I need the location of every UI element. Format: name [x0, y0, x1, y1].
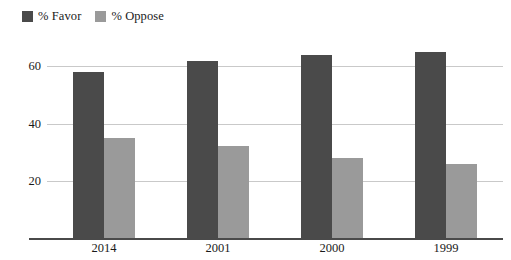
- bar-1999-oppose: [446, 164, 477, 238]
- bar-group-2001: [187, 32, 249, 238]
- x-tick-label-2001: 2001: [206, 241, 231, 256]
- bar-2001-favor: [187, 61, 218, 238]
- legend-swatch-favor: [22, 11, 33, 22]
- y-tick-label-60: 60: [29, 60, 42, 73]
- legend-label-favor: % Favor: [38, 10, 81, 23]
- bar-2000-favor: [301, 55, 332, 238]
- legend-swatch-oppose: [95, 11, 106, 22]
- bar-2014-favor: [73, 72, 104, 238]
- x-tick-label-2014: 2014: [92, 241, 117, 256]
- bar-group-2014: [73, 32, 135, 238]
- chart-legend: % Favor % Oppose: [22, 8, 164, 24]
- bar-chart: % Favor % Oppose 60 40 20 2014 2001 2000…: [0, 0, 511, 260]
- y-tick-label-20: 20: [29, 175, 42, 188]
- x-axis: 2014 2001 2000 1999: [47, 241, 503, 259]
- bar-group-2000: [301, 32, 363, 238]
- bar-2001-oppose: [218, 146, 249, 238]
- legend-item-favor: % Favor: [22, 10, 81, 23]
- x-tick-label-1999: 1999: [434, 241, 459, 256]
- plot-area: [47, 32, 503, 238]
- legend-label-oppose: % Oppose: [111, 10, 164, 23]
- bar-group-1999: [415, 32, 477, 238]
- y-axis: 60 40 20: [0, 32, 41, 238]
- bar-2000-oppose: [332, 158, 363, 238]
- x-axis-line: [29, 238, 503, 240]
- legend-item-oppose: % Oppose: [95, 10, 164, 23]
- bar-2014-oppose: [104, 138, 135, 238]
- bar-1999-favor: [415, 52, 446, 238]
- x-tick-label-2000: 2000: [320, 241, 345, 256]
- y-tick-label-40: 40: [29, 117, 42, 130]
